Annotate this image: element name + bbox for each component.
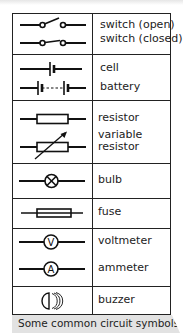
label-fuse: fuse [98, 206, 121, 218]
label-switch-open: switch (open) [100, 19, 175, 31]
figure-caption: Some common circuit symbols. [12, 315, 180, 333]
ammeter-letter: A [48, 264, 55, 275]
label-buzzer: buzzer [98, 294, 135, 306]
symbols-column: V A [13, 14, 92, 314]
label-resistor: resistor [98, 112, 139, 124]
buzzer-icon [42, 293, 63, 310]
label-variable-resistor: resistor [98, 141, 139, 153]
switch-closed-icon [20, 41, 86, 46]
variable-resistor-icon [20, 132, 86, 160]
label-battery: battery [100, 81, 140, 93]
cell-icon [20, 62, 82, 76]
resistor-icon [20, 115, 86, 124]
caption-text: Some common circuit symbols. [18, 317, 183, 329]
fuse-icon [21, 209, 83, 217]
bulb-icon [19, 175, 85, 188]
switch-open-icon [20, 18, 86, 28]
column-divider [92, 14, 93, 314]
top-shade [0, 0, 183, 5]
label-bulb: bulb [98, 174, 122, 186]
label-voltmeter: voltmeter [98, 235, 152, 247]
label-switch-closed: switch (closed) [100, 33, 183, 45]
voltmeter-letter: V [48, 237, 55, 248]
label-ammeter: ammeter [98, 262, 149, 274]
battery-icon [20, 81, 86, 95]
label-cell: cell [100, 62, 119, 74]
